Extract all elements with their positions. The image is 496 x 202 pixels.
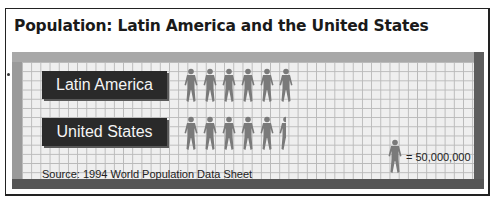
panel-bevel-bottom [12, 179, 484, 189]
person-icon [258, 116, 276, 152]
category-label-latin-america: Latin America [42, 71, 167, 99]
chart-title: Population: Latin America and the United… [14, 17, 429, 35]
legend: = 50,000,000 [386, 139, 471, 175]
person-icon [258, 68, 276, 104]
person-icon [386, 139, 404, 175]
panel-bevel-left [12, 52, 22, 189]
source-note: Source: 1994 World Population Data Sheet [42, 168, 252, 180]
partial-person-icon [277, 116, 286, 152]
category-label-united-states: United States [42, 118, 167, 146]
person-icon [220, 68, 238, 104]
person-icon [239, 68, 257, 104]
icon-row-united-states [182, 116, 286, 152]
person-icon [201, 68, 219, 104]
person-icon [239, 116, 257, 152]
icon-row-latin-america [182, 68, 295, 104]
legend-text: = 50,000,000 [406, 151, 471, 163]
person-icon [220, 116, 238, 152]
panel-bevel-top [12, 52, 484, 62]
person-icon [201, 116, 219, 152]
person-icon [182, 116, 200, 152]
panel-bevel-right [474, 52, 484, 189]
person-icon [277, 68, 295, 104]
person-icon [182, 68, 200, 104]
bullet-mark [7, 73, 10, 76]
